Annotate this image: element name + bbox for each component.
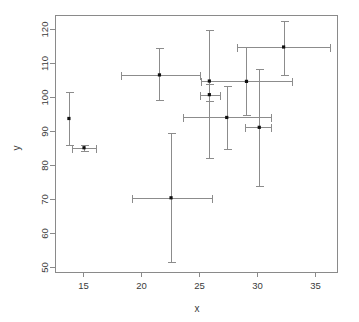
x-tick-label: 15 xyxy=(78,280,89,291)
x-axis-label: x xyxy=(195,303,200,314)
data-point xyxy=(282,45,285,48)
y-tick-label: 120 xyxy=(39,22,50,38)
y-tick-label: 90 xyxy=(39,126,50,137)
y-tick-label: 100 xyxy=(39,90,50,106)
data-point xyxy=(208,93,211,96)
y-tick-label: 110 xyxy=(39,56,50,71)
data-point xyxy=(158,73,161,76)
x-tick-label: 25 xyxy=(194,280,205,291)
data-point xyxy=(169,196,172,199)
x-tick-label: 20 xyxy=(136,280,147,291)
data-point xyxy=(208,79,211,82)
y-tick-label: 60 xyxy=(39,228,50,239)
plot-canvas: 1520253035 5060708090100110120 x y xyxy=(0,0,359,322)
figure-background xyxy=(0,0,359,322)
data-point xyxy=(225,116,228,119)
y-axis-label: y xyxy=(11,146,22,151)
x-tick-label: 35 xyxy=(310,280,321,291)
scatter-plot-figure: 1520253035 5060708090100110120 x y xyxy=(0,0,359,322)
data-point xyxy=(258,126,261,129)
data-point xyxy=(82,146,85,149)
x-tick-label: 30 xyxy=(252,280,263,291)
y-tick-label: 80 xyxy=(39,160,50,171)
data-point xyxy=(67,117,70,120)
y-tick-label: 70 xyxy=(39,194,50,205)
y-tick-label: 50 xyxy=(39,262,50,273)
data-point xyxy=(245,80,248,83)
